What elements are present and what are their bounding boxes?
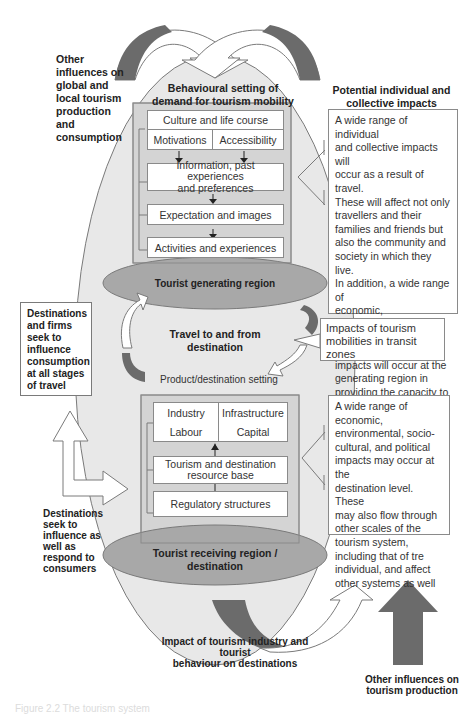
resource-base-box: Tourism and destination resource base <box>153 456 288 484</box>
tourist-receiving-region-label: Tourist receiving region / destination <box>140 547 290 573</box>
labour-cell: Labour <box>154 422 219 441</box>
information-box: Information, past experiences and prefer… <box>147 163 284 191</box>
industry-cell: Industry <box>154 403 219 422</box>
potential-impacts-heading: Potential individual and collective impa… <box>318 84 465 110</box>
destinations-influence-label: Destinations seek to influence as well a… <box>43 508 103 574</box>
destination-impacts-text: A wide range of economic, environmental,… <box>328 395 450 535</box>
figure-caption: Figure 2.2 The tourism system <box>15 703 150 714</box>
culture-life-course-cell: Culture and life course <box>148 111 283 130</box>
accessibility-cell: Accessibility <box>213 130 283 149</box>
culture-motivations-box: Culture and life course Motivations Acce… <box>147 110 284 150</box>
top-right-curved-arrow-dark <box>262 25 320 80</box>
other-influences-global-label: Other influences on global and local tou… <box>56 53 124 144</box>
expectation-box: Expectation and images <box>147 204 284 225</box>
other-influences-up-arrow <box>378 580 438 665</box>
product-destination-setting-label: Product/destination setting <box>160 374 278 385</box>
impact-industry-label: Impact of tourism industry and tourist b… <box>145 636 325 669</box>
other-influences-production-label: Other influences on tourism production <box>362 674 462 696</box>
regulatory-structures-box: Regulatory structures <box>153 491 288 517</box>
capital-cell: Capital <box>219 422 287 441</box>
industry-infrastructure-box: Industry Infrastructure Labour Capital <box>153 402 288 442</box>
tourist-generating-region-label: Tourist generating region <box>140 277 290 290</box>
behavioural-setting-heading: Behavioural setting of demand for touris… <box>148 82 298 108</box>
motivations-cell: Motivations <box>148 130 213 149</box>
destinations-firms-box: Destinations and firms seek to influence… <box>20 302 92 396</box>
potential-impacts-text: A wide range of individual and collectiv… <box>328 109 458 314</box>
travel-label: Travel to and from destination <box>150 328 280 354</box>
activities-box: Activities and experiences <box>147 237 284 258</box>
transit-impacts-box: Impacts of tourism mobilities in transit… <box>320 318 445 361</box>
infrastructure-cell: Infrastructure <box>219 403 287 422</box>
